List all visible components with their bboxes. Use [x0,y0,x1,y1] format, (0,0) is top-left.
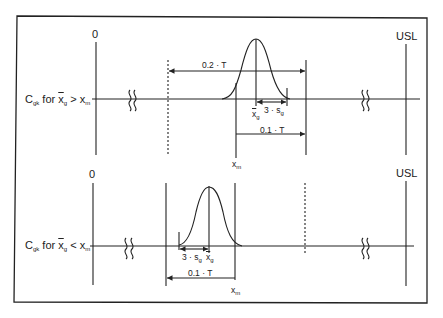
top-axis-break-right-icon [362,90,369,111]
bottom-dim-0.1T-label: 0.1 · T [188,267,212,279]
top-dim-0.1T-label: 0.1 · T [260,124,284,136]
top-usl-label: USL [396,30,417,42]
bottom-row-label: Cgk for xg < xm [25,239,90,255]
top-row-label: Cgk for xg > xm [25,93,90,109]
top-sigma-label: 3 · sg [264,104,284,119]
cgk-symbol: C [25,239,33,251]
bottom-axis-break-right-icon [362,238,369,259]
top-axis-break-left-icon [129,90,136,111]
bottom-usl-label: USL [396,167,417,179]
top-mean-label: xg [252,108,260,123]
cgk-symbol: C [25,93,33,105]
bottom-xm-label: xm [231,284,240,299]
bottom-axis-break-left-icon [125,238,133,259]
bottom-sigma-label: 3 · sg [182,251,202,266]
top-zero-label: 0 [92,28,98,40]
bottom-normal-curve [179,187,242,246]
top-dim-0.2T-label: 0.2 · T [202,59,226,71]
bottom-mean-label: xg [206,251,214,266]
bottom-zero-label: 0 [89,168,95,180]
top-xm-label: xm [232,158,241,173]
diagram-canvas [0,0,443,318]
